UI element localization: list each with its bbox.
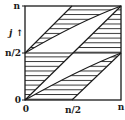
y-tick-label-n: n [13,1,20,11]
y-axis-label: j [7,28,13,38]
up-arrow-icon: ↑ [16,28,24,38]
hatched-region-diagram: n j ↑ n/2 0 0 n/2 n [0,0,125,120]
x-tick-label-half: n/2 [65,105,81,115]
x-tick-label-0: 0 [23,104,29,114]
y-tick-label-0: 0 [15,95,21,105]
x-tick-label-n: n [118,102,125,112]
y-tick-label-half: n/2 [5,48,21,58]
